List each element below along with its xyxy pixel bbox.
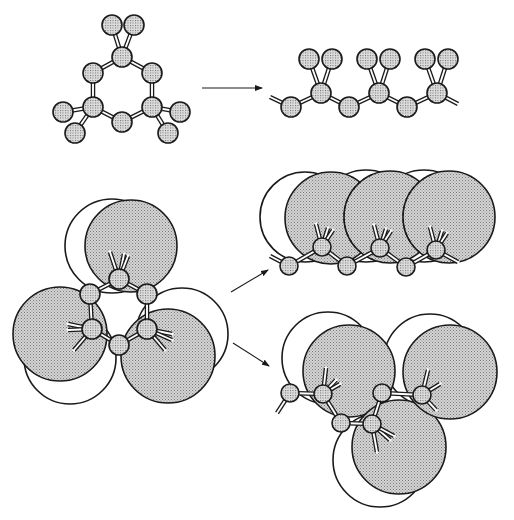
arrow-lower-icon bbox=[233, 343, 269, 366]
atom-sphere bbox=[109, 269, 129, 289]
atom-sphere bbox=[102, 15, 122, 35]
panel-ring-ball-stick bbox=[53, 15, 190, 143]
atom-sphere bbox=[83, 97, 103, 117]
atom-sphere bbox=[109, 335, 129, 355]
panel-chain-space-filling bbox=[260, 170, 495, 276]
atom-sphere bbox=[322, 49, 342, 69]
atom-sphere bbox=[338, 257, 356, 275]
panel-ring-space-filling bbox=[13, 199, 228, 404]
atom-sphere bbox=[363, 415, 381, 433]
atom-sphere bbox=[112, 47, 132, 67]
methyl-volume-circle bbox=[85, 200, 177, 292]
atom-sphere bbox=[438, 49, 458, 69]
methyl-volume-circle bbox=[403, 171, 495, 263]
atom-sphere bbox=[142, 63, 162, 83]
atom-sphere bbox=[332, 414, 350, 432]
atom-sphere bbox=[373, 384, 391, 402]
atom-sphere bbox=[124, 15, 144, 35]
atom-sphere bbox=[413, 386, 431, 404]
atom-sphere bbox=[281, 97, 301, 117]
atom-sphere bbox=[83, 63, 103, 83]
atom-sphere bbox=[339, 97, 359, 117]
atom-sphere bbox=[371, 239, 389, 257]
atom-sphere bbox=[369, 83, 389, 103]
atom-sphere bbox=[137, 319, 157, 339]
diagram-figure: Conformations of a 1,1,3,3,5,5-hexamethy… bbox=[0, 0, 514, 520]
atom-sphere bbox=[380, 49, 400, 69]
atom-sphere bbox=[427, 83, 447, 103]
methyl-volume-circle bbox=[121, 309, 215, 403]
atom-sphere bbox=[158, 123, 178, 143]
atom-sphere bbox=[142, 97, 162, 117]
atom-sphere bbox=[82, 319, 102, 339]
atom-sphere bbox=[397, 97, 417, 117]
diagram-canvas bbox=[0, 0, 514, 520]
atom-sphere bbox=[65, 123, 85, 143]
atom-sphere bbox=[314, 385, 332, 403]
atom-sphere bbox=[427, 241, 445, 259]
atom-sphere bbox=[170, 102, 190, 122]
atom-sphere bbox=[112, 112, 132, 132]
panel-chain-ball-stick bbox=[269, 49, 458, 117]
atom-sphere bbox=[397, 258, 415, 276]
atom-sphere bbox=[299, 49, 319, 69]
atom-sphere bbox=[311, 83, 331, 103]
atom-sphere bbox=[415, 49, 435, 69]
atom-sphere bbox=[357, 49, 377, 69]
methyl-volume-circle bbox=[403, 325, 497, 419]
atom-sphere bbox=[280, 257, 298, 275]
panel-helix-space-filling bbox=[276, 312, 497, 507]
atom-sphere bbox=[53, 102, 73, 122]
atom-sphere bbox=[281, 384, 299, 402]
arrow-upper-icon bbox=[231, 270, 268, 292]
atom-sphere bbox=[137, 284, 157, 304]
atom-sphere bbox=[80, 284, 100, 304]
atom-sphere bbox=[313, 238, 331, 256]
